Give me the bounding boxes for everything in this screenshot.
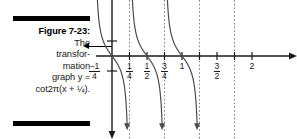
fraction: −14 (89, 62, 101, 81)
x-axis-arrowhead (289, 53, 297, 60)
caption-text: Figure 7-23: The transfor- mation graph … (4, 26, 90, 96)
caption-line-3: mation (4, 61, 90, 73)
caption-line-1: The (4, 38, 90, 50)
x-tick-label-2: 2 (240, 62, 264, 72)
fraction-numerator: 3 (161, 62, 168, 71)
caption-rule-bottom (13, 121, 90, 126)
integer-label: 2 (249, 61, 254, 71)
fraction: 12 (144, 62, 151, 81)
fraction: 14 (126, 62, 133, 81)
fraction-numerator: 3 (214, 62, 221, 71)
fraction-denominator: 2 (214, 71, 221, 81)
x-tick-label-1: 1 (170, 62, 194, 72)
fraction-denominator: 4 (126, 71, 133, 81)
fraction-numerator: 1 (144, 62, 151, 71)
fraction-numerator: 1 (126, 62, 133, 71)
fraction: 34 (161, 62, 168, 81)
integer-label: 1 (179, 61, 184, 71)
fraction: 32 (214, 62, 221, 81)
fraction-denominator: 4 (89, 71, 101, 81)
x-tick-label-neg1-over-4: −14 (83, 62, 107, 81)
fraction-denominator: 2 (144, 71, 151, 81)
cotangent-graph: −141412341322 (96, 0, 297, 139)
caption-line-5: cot2π(x + ¼). (4, 84, 90, 96)
x-tick-label-3-over-2: 32 (205, 62, 229, 81)
figure-label: Figure 7-23: (4, 26, 90, 38)
caption-line-4: graph y = (4, 72, 90, 84)
fraction-denominator: 4 (161, 71, 168, 81)
caption-rule-top (13, 16, 90, 21)
figure-container: Figure 7-23: The transfor- mation graph … (0, 0, 297, 139)
fraction-numerator: −1 (89, 62, 101, 71)
caption-line-2: transfor- (4, 49, 90, 61)
y-axis-arrowhead (109, 131, 116, 139)
